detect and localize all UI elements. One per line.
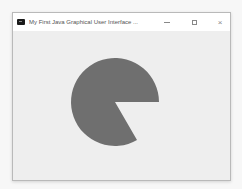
app-window: My First Java Graphical User Interface .… [12, 12, 231, 181]
close-icon: × [218, 18, 223, 27]
java-app-icon [17, 19, 25, 25]
minimize-icon [164, 22, 170, 23]
window-title: My First Java Graphical User Interface .… [29, 19, 138, 25]
maximize-button[interactable] [183, 13, 205, 31]
client-area [13, 31, 230, 180]
minimize-button[interactable] [156, 13, 178, 31]
maximize-icon [192, 20, 197, 25]
close-button[interactable]: × [209, 13, 231, 31]
title-bar[interactable]: My First Java Graphical User Interface .… [13, 13, 230, 31]
drawing-canvas [13, 31, 230, 180]
pie-arc-shape [71, 58, 159, 146]
